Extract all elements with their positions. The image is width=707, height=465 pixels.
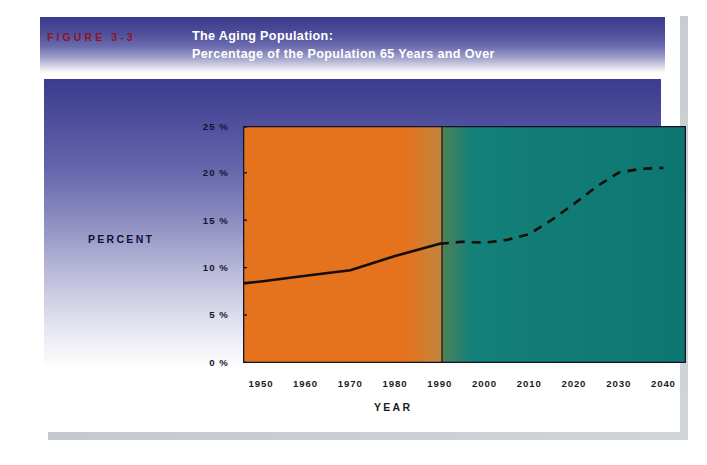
figure-title-line-2: Percentage of the Population 65 Years an…: [192, 46, 495, 64]
y-tick-label-15: 15 %: [187, 215, 229, 226]
y-tick-label-25: 25 %: [187, 121, 229, 132]
plot-area: 0 % 5 % 10 % 15 % 20 % 25 % 1950 1960 19…: [243, 126, 686, 363]
figure-number-label: FIGURE 3-3: [47, 31, 136, 43]
y-tick-label-0: 0 %: [187, 357, 229, 368]
figure-header-band: FIGURE 3-3 The Aging Population: Percent…: [40, 17, 665, 73]
y-tick-label-20: 20 %: [187, 167, 229, 178]
region-projected: [442, 126, 686, 363]
figure-title-line-1: The Aging Population:: [192, 28, 495, 46]
figure-title: The Aging Population: Percentage of the …: [192, 28, 495, 63]
region-historical: [243, 126, 442, 363]
line-chart-svg: [243, 126, 686, 363]
figure-plate: FIGURE 3-3 The Aging Population: Percent…: [0, 0, 707, 465]
figure-body: FIGURE 3-3 The Aging Population: Percent…: [40, 8, 680, 432]
y-axis-title: PERCENT: [88, 233, 154, 245]
y-tick-label-5: 5 %: [187, 309, 229, 320]
x-axis-title: YEAR: [374, 401, 412, 413]
x-tick-label-2040: 2040: [637, 378, 689, 389]
chart-panel: PERCENT YEAR: [44, 79, 661, 416]
y-tick-label-10: 10 %: [187, 262, 229, 273]
